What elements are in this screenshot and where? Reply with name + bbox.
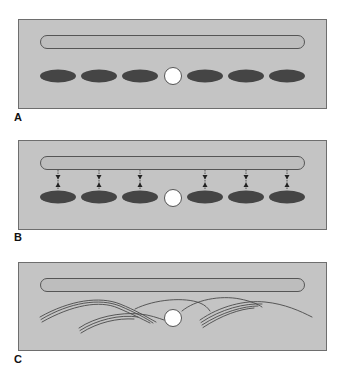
panel-b-center-circle bbox=[165, 190, 182, 207]
panel-c-background bbox=[19, 263, 327, 351]
panel-a-ellipse-5 bbox=[228, 70, 264, 83]
panel-b-capsule bbox=[41, 157, 305, 170]
panel-b-background bbox=[19, 141, 327, 230]
panel-a-ellipse-2 bbox=[81, 70, 117, 83]
panel-a-ellipse-4 bbox=[187, 70, 223, 83]
panel-c bbox=[19, 263, 327, 351]
panel-a-capsule bbox=[41, 36, 305, 49]
panel-b-ellipse-2 bbox=[81, 191, 117, 204]
panel-c-center-circle bbox=[165, 310, 182, 327]
panel-a-center-circle bbox=[165, 68, 182, 85]
panel-b-ellipse-4 bbox=[187, 191, 223, 204]
panel-a-ellipse-1 bbox=[40, 70, 76, 83]
panel-b-ellipse-1 bbox=[40, 191, 76, 204]
panel-b-label: B bbox=[14, 231, 22, 243]
panel-c-capsule bbox=[41, 279, 305, 292]
panel-b-ellipse-6 bbox=[269, 191, 305, 204]
panel-a-ellipse-3 bbox=[122, 70, 158, 83]
diagram-figure: A B C bbox=[0, 0, 345, 375]
panel-a-label: A bbox=[14, 111, 22, 123]
diagram-canvas bbox=[0, 0, 345, 375]
panel-a-background bbox=[19, 20, 327, 109]
panel-a-ellipse-6 bbox=[269, 70, 305, 83]
panel-b bbox=[19, 141, 327, 230]
panel-b-ellipse-3 bbox=[122, 191, 158, 204]
panel-a bbox=[19, 20, 327, 109]
panel-c-label: C bbox=[14, 353, 22, 365]
panel-b-ellipse-5 bbox=[228, 191, 264, 204]
